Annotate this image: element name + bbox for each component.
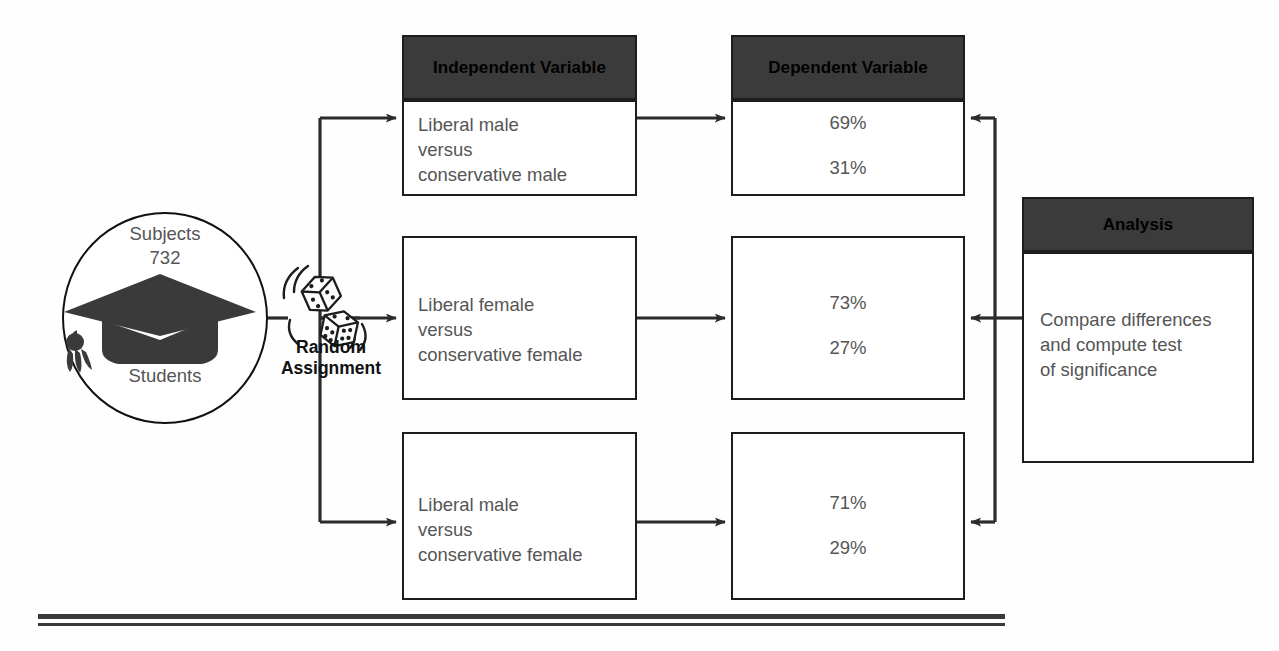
analysis-body-text: Compare differences and compute test of …: [1040, 307, 1211, 382]
condition-text-row1: Liberal male versus conservative male: [418, 112, 567, 187]
independent-variable-box-row2: Liberal female versus conservative femal…: [402, 236, 637, 400]
dependent-variable-box-row1: 69% 31%: [731, 100, 965, 196]
diagram-canvas: Subjects 732 College Students: [0, 0, 1279, 651]
bottom-rule: [0, 612, 1279, 632]
result-primary-row1: 69%: [733, 112, 963, 134]
result-secondary-row3: 29%: [733, 537, 963, 559]
independent-variable-box-row3: Liberal male versus conservative female: [402, 432, 637, 600]
condition-text-row3: Liberal male versus conservative female: [418, 492, 583, 567]
independent-variable-header-label: Independent Variable: [433, 58, 606, 78]
analysis-header-label: Analysis: [1103, 215, 1174, 235]
result-primary-row3: 71%: [733, 492, 963, 514]
graduation-cap-icon: [60, 268, 260, 373]
subjects-count: 732: [62, 246, 268, 270]
analysis-header: Analysis: [1022, 197, 1254, 252]
independent-variable-header: Independent Variable: [402, 35, 637, 100]
independent-variable-box-row1: Liberal male versus conservative male: [402, 100, 637, 196]
result-secondary-row2: 27%: [733, 337, 963, 359]
result-secondary-row1: 31%: [733, 157, 963, 179]
subjects-label: Subjects: [62, 222, 268, 246]
dependent-variable-header-label: Dependent Variable: [768, 58, 928, 78]
random-assignment-label: Random Assignment: [256, 337, 406, 379]
analysis-box: Compare differences and compute test of …: [1022, 252, 1254, 463]
dependent-variable-box-row2: 73% 27%: [731, 236, 965, 400]
result-primary-row2: 73%: [733, 292, 963, 314]
dependent-variable-box-row3: 71% 29%: [731, 432, 965, 600]
condition-text-row2: Liberal female versus conservative femal…: [418, 292, 583, 367]
dependent-variable-header: Dependent Variable: [731, 35, 965, 100]
